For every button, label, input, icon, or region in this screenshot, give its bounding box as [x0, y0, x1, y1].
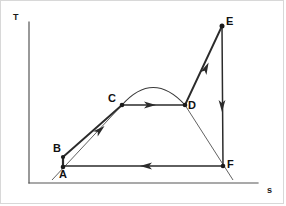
- state-label-e: E: [226, 16, 233, 27]
- diagram-canvas: [0, 0, 286, 206]
- state-point-e: [220, 24, 225, 29]
- state-label-f: F: [227, 159, 234, 170]
- y-axis-label: T: [13, 13, 19, 22]
- state-label-a: A: [59, 169, 67, 180]
- process-line-b-c: [63, 105, 122, 157]
- saturated-vapor-line: [185, 105, 233, 180]
- process-line-e-f: [222, 26, 223, 166]
- x-axis-label: s: [267, 186, 272, 195]
- process-line-d-e: [185, 26, 222, 105]
- state-label-d: D: [188, 100, 196, 111]
- state-label-c: C: [108, 93, 116, 104]
- ts-diagram-figure: T s A B C D E F: [0, 0, 286, 206]
- state-point-f: [221, 164, 226, 169]
- state-point-b: [61, 155, 65, 159]
- saturation-dome-arc: [122, 88, 185, 106]
- state-point-d: [183, 103, 188, 108]
- state-label-b: B: [53, 143, 61, 154]
- state-point-c: [120, 103, 125, 108]
